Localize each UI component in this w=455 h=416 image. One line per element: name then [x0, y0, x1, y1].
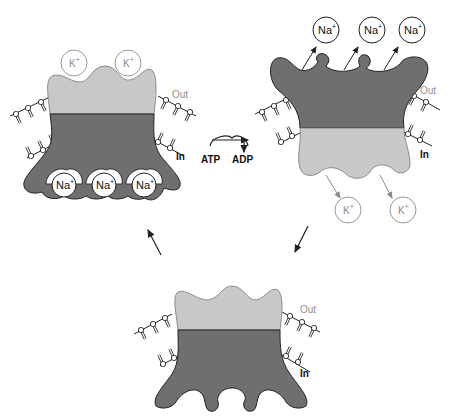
- membrane-left-3: [134, 314, 182, 367]
- na-ion-inside-2: Na+: [92, 173, 116, 197]
- protein-extracellular-domain-empty: [175, 286, 282, 330]
- state-2-pump: Na+ Na+ Na+ K+ K+ Out In: [255, 17, 440, 223]
- k-ion-outside-2: K+: [115, 50, 141, 76]
- cycle-arrow-to-state-1: [148, 230, 161, 255]
- adp-label: ADP: [232, 154, 253, 165]
- na-ion-inside-1: Na+: [52, 173, 76, 197]
- in-label-3: In: [300, 368, 309, 379]
- membrane-right-1: [154, 96, 196, 156]
- k-ion-outside-1: K+: [61, 50, 87, 76]
- k-ion-inside-1: K+: [326, 175, 361, 223]
- state-1-pump: Na+ Na+ Na+ K+ K+ Out In: [10, 50, 196, 200]
- state-3-pump: Out In: [134, 286, 320, 411]
- protein-intracellular-domain-empty: [155, 330, 307, 411]
- membrane-right-3: [280, 312, 320, 372]
- out-label-2: Out: [420, 85, 436, 96]
- na-ion-inside-3: Na+: [132, 173, 156, 197]
- cycle-arrow-to-state-3: [295, 226, 308, 252]
- out-label-1: Out: [172, 89, 188, 100]
- atp-label: ATP: [201, 154, 221, 165]
- protein-intracellular-domain-open: [299, 128, 410, 178]
- out-label-3: Out: [300, 304, 316, 315]
- in-label-1: In: [176, 151, 185, 162]
- protein-extracellular-domain-open: [271, 54, 428, 128]
- in-label-2: In: [420, 149, 429, 160]
- pump-cycle-diagram: Na+ Na+ Na+ K+ K+ Out In ATP ADP: [0, 0, 455, 416]
- protein-extracellular-domain: [48, 66, 156, 114]
- k-ion-inside-2: K+: [380, 175, 416, 223]
- atp-hydrolysis: ATP ADP: [201, 136, 253, 165]
